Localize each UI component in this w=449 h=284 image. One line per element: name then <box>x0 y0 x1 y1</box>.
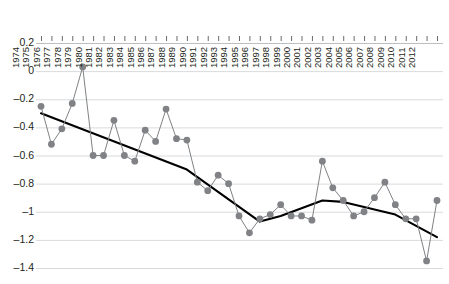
data-point-marker <box>381 179 388 186</box>
y-axis-tick-label: –0.8 <box>0 178 34 188</box>
data-point-marker <box>361 208 368 215</box>
data-point-marker <box>142 127 149 134</box>
data-point-marker <box>423 258 430 265</box>
data-point-marker <box>48 141 55 148</box>
chart-container: 0.20–0.2–0.4–0.6–0.8–1–1.2–1.4 197419751… <box>0 0 449 284</box>
data-point-marker <box>319 158 326 165</box>
data-point-marker <box>111 117 118 124</box>
data-point-marker <box>309 217 316 224</box>
y-axis-tick-label: –0.4 <box>0 121 34 131</box>
data-point-marker <box>58 125 65 132</box>
data-point-marker <box>298 213 305 220</box>
data-point-marker <box>131 158 138 165</box>
data-polyline <box>41 67 437 261</box>
data-point-marker <box>277 201 284 208</box>
data-point-marker <box>371 194 378 201</box>
data-point-marker <box>152 138 159 145</box>
data-point-marker <box>434 197 441 204</box>
data-point-marker <box>413 215 420 222</box>
data-point-marker <box>402 215 409 222</box>
data-point-marker <box>204 187 211 194</box>
data-point-marker <box>163 106 170 113</box>
x-axis-ticks <box>42 36 438 41</box>
y-axis-tick-label: –1.2 <box>0 234 34 244</box>
data-point-marker <box>256 215 263 222</box>
x-axis-tick-label: 2012 <box>407 47 441 68</box>
data-point-marker <box>183 137 190 144</box>
data-point-marker <box>246 229 253 236</box>
y-axis-tick-label: –1.4 <box>0 262 34 272</box>
data-point-marker <box>173 135 180 142</box>
data-point-marker <box>38 103 45 110</box>
data-point-marker <box>194 179 201 186</box>
y-axis-tick-label: –0.6 <box>0 150 34 160</box>
data-point-marker <box>288 213 295 220</box>
data-point-marker <box>121 152 128 159</box>
data-point-markers <box>38 64 441 265</box>
y-axis-tick-label: 0.2 <box>0 37 34 47</box>
chart-plot-area <box>0 0 449 284</box>
data-point-marker <box>69 100 76 107</box>
data-point-marker <box>350 213 357 220</box>
y-axis-tick-label: –0.2 <box>0 93 34 103</box>
data-line-series <box>41 67 437 261</box>
data-point-marker <box>329 184 336 191</box>
data-point-marker <box>90 152 97 159</box>
data-point-marker <box>236 213 243 220</box>
data-point-marker <box>100 152 107 159</box>
data-point-marker <box>340 197 347 204</box>
data-point-marker <box>392 201 399 208</box>
y-axis-tick-label: –1 <box>0 206 34 216</box>
data-point-marker <box>225 180 232 187</box>
data-point-marker <box>267 211 274 218</box>
data-point-marker <box>215 172 222 179</box>
